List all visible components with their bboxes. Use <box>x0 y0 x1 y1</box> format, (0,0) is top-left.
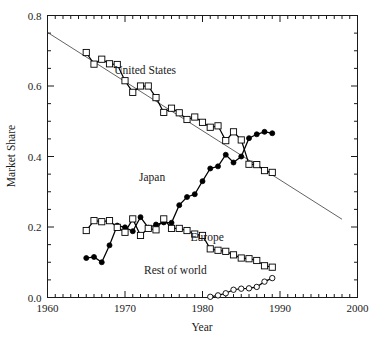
y-axis-title: Market Share <box>5 125 17 187</box>
data-point <box>83 49 89 55</box>
data-point <box>262 129 267 134</box>
data-point <box>99 219 105 225</box>
series-europe <box>83 216 275 270</box>
x-axis-title: Year <box>191 321 212 333</box>
series-label-rest-of-world: Rest of world <box>144 264 207 276</box>
y-axis-tick-labels: 0.00.20.40.60.8 <box>28 10 42 304</box>
data-point <box>254 132 259 137</box>
data-point <box>177 203 182 208</box>
data-point <box>199 119 205 125</box>
data-point <box>130 89 136 95</box>
data-point <box>138 215 143 220</box>
data-point <box>106 218 112 224</box>
data-series-group <box>83 49 275 299</box>
data-point <box>161 216 167 222</box>
data-point <box>207 124 213 130</box>
data-point <box>262 279 267 284</box>
data-point <box>192 192 197 197</box>
data-point <box>130 229 135 234</box>
data-point <box>216 164 221 169</box>
data-point <box>261 168 267 174</box>
data-point <box>223 248 229 254</box>
x-tick-label: 1970 <box>114 302 137 314</box>
series-label-united-states: United States <box>114 64 176 76</box>
x-tick-label: 2000 <box>347 302 370 314</box>
data-point <box>145 83 151 89</box>
chart-figure: 19601970198019902000 0.00.20.40.60.8 Uni… <box>0 0 384 346</box>
data-point <box>168 225 174 231</box>
y-tick-label: 0.2 <box>28 221 42 233</box>
data-point <box>246 161 252 167</box>
data-point <box>200 179 205 184</box>
data-point <box>145 225 151 231</box>
data-point <box>192 114 198 120</box>
data-point <box>107 243 112 248</box>
data-point <box>91 61 97 67</box>
data-point <box>207 246 213 252</box>
data-point <box>239 154 244 159</box>
data-point <box>185 195 190 200</box>
data-point <box>137 83 143 89</box>
data-point <box>270 275 275 280</box>
data-point <box>168 105 174 111</box>
data-point <box>153 95 159 101</box>
data-point <box>269 264 275 270</box>
data-point <box>215 123 221 129</box>
data-point <box>223 138 229 144</box>
data-point <box>91 218 97 224</box>
data-point <box>114 224 120 230</box>
data-point <box>231 160 236 165</box>
x-tick-label: 1980 <box>192 302 215 314</box>
data-point <box>223 152 228 157</box>
y-tick-label: 0.8 <box>28 10 42 22</box>
data-point <box>261 263 267 269</box>
data-point <box>161 109 167 115</box>
data-point <box>176 110 182 116</box>
data-point <box>106 61 112 67</box>
data-point <box>254 284 259 289</box>
data-point <box>137 232 143 238</box>
data-point <box>208 166 213 171</box>
data-point <box>269 169 275 175</box>
series-united-states <box>83 49 275 175</box>
x-axis-tick-labels: 19601970198019902000 <box>37 302 370 314</box>
data-point <box>208 294 213 299</box>
data-point <box>239 286 244 291</box>
y-tick-label: 0.6 <box>28 80 42 92</box>
x-tick-label: 1990 <box>269 302 292 314</box>
data-point <box>247 136 252 141</box>
data-point <box>92 254 97 259</box>
data-point <box>130 216 136 222</box>
series-japan <box>84 129 275 264</box>
data-point <box>99 260 104 265</box>
data-point <box>215 293 220 298</box>
data-point <box>230 252 236 258</box>
data-point <box>238 137 244 143</box>
data-point <box>122 229 128 235</box>
data-point <box>176 225 182 231</box>
data-point <box>83 227 89 233</box>
data-point <box>231 287 236 292</box>
data-point <box>184 227 190 233</box>
data-point <box>254 162 260 168</box>
market-share-line-chart: 19601970198019902000 0.00.20.40.60.8 Uni… <box>0 0 384 346</box>
data-point <box>215 247 221 253</box>
data-point <box>153 227 159 233</box>
data-point <box>270 131 275 136</box>
data-point <box>169 220 174 225</box>
data-point <box>254 257 260 263</box>
data-point <box>246 256 252 262</box>
data-point <box>238 255 244 261</box>
data-point <box>223 291 228 296</box>
series-label-europe: Europe <box>191 231 224 244</box>
series-label-japan: Japan <box>139 171 165 184</box>
data-point <box>230 129 236 135</box>
data-point <box>184 116 190 122</box>
data-point <box>246 286 251 291</box>
y-tick-label: 0.4 <box>28 151 42 163</box>
data-point <box>99 56 105 62</box>
data-point <box>84 256 89 261</box>
y-tick-label: 0.0 <box>28 292 42 304</box>
data-point <box>122 78 128 84</box>
